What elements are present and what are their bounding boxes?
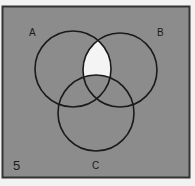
figure-number: 5	[13, 158, 20, 173]
venn-diagram: A B C 5	[0, 0, 195, 186]
label-a: A	[29, 27, 36, 38]
label-c: C	[92, 160, 99, 171]
label-b: B	[157, 27, 164, 38]
